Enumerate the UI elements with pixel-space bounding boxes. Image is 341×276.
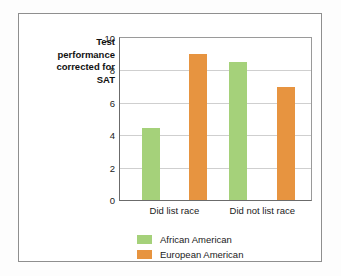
legend-label: European American	[160, 249, 243, 260]
legend-swatch-icon	[137, 250, 152, 259]
plot-area: 0246810 Did list raceDid not list race	[119, 37, 312, 201]
y-tick-10: 10	[104, 33, 115, 44]
chart-figure-frame: Test performance corrected for SAT 02468…	[18, 13, 322, 262]
y-tick-6: 6	[110, 97, 115, 108]
bar-did-not-list-race-african-american	[229, 62, 247, 200]
y-tick-8: 8	[110, 65, 115, 76]
bar-did-list-race-european-american	[189, 54, 207, 200]
legend-swatch-icon	[137, 235, 152, 244]
y-tick-0: 0	[110, 195, 115, 206]
chart-legend: African AmericanEuropean American	[137, 233, 243, 263]
y-axis-title: Test performance corrected for SAT	[33, 36, 115, 86]
legend-label: African American	[160, 234, 232, 245]
y-tick-2: 2	[110, 162, 115, 173]
x-label-did-not-list-race: Did not list race	[230, 205, 295, 216]
x-label-did-list-race: Did list race	[150, 205, 200, 216]
gridline-8	[120, 70, 311, 71]
y-tick-4: 4	[110, 130, 115, 141]
bar-did-list-race-african-american	[142, 128, 160, 200]
legend-item-european-american: European American	[137, 248, 243, 261]
bar-did-not-list-race-european-american	[277, 87, 295, 200]
legend-item-african-american: African American	[137, 233, 243, 246]
